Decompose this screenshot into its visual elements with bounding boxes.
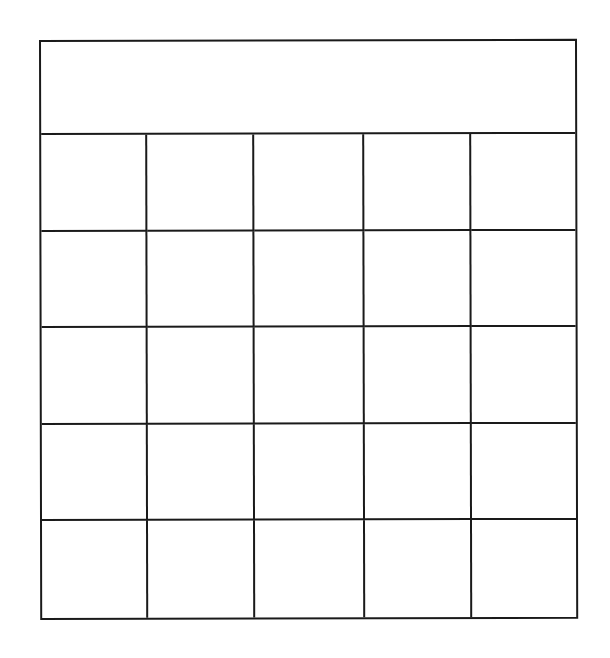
grid-cell xyxy=(147,135,254,232)
grid-cell xyxy=(148,424,255,521)
grid-cell xyxy=(364,231,471,328)
grid-cell xyxy=(147,231,254,328)
grid-cell xyxy=(471,134,575,231)
grid-cell xyxy=(148,521,255,618)
grid-cell xyxy=(472,424,576,521)
grid-5x5 xyxy=(41,134,576,618)
grid-cell xyxy=(472,520,576,617)
grid-cell xyxy=(41,231,147,328)
grid-cell xyxy=(255,424,365,521)
grid-cell xyxy=(255,328,365,425)
grid-cell xyxy=(254,231,364,328)
grid-cell xyxy=(254,134,364,231)
grid-cell xyxy=(42,521,148,618)
grid-cell xyxy=(255,521,365,618)
grid-cell xyxy=(42,328,148,425)
grid-cell xyxy=(364,134,471,231)
grid-cell xyxy=(365,327,472,424)
header-box xyxy=(41,41,575,135)
grid-cell xyxy=(471,230,575,327)
grid-cell xyxy=(472,327,576,424)
grid-cell xyxy=(42,425,148,522)
grid-cell xyxy=(41,135,147,232)
grid-cell xyxy=(365,520,472,617)
grid-cell xyxy=(365,424,472,521)
grid-card xyxy=(39,39,578,620)
grid-cell xyxy=(148,328,255,425)
